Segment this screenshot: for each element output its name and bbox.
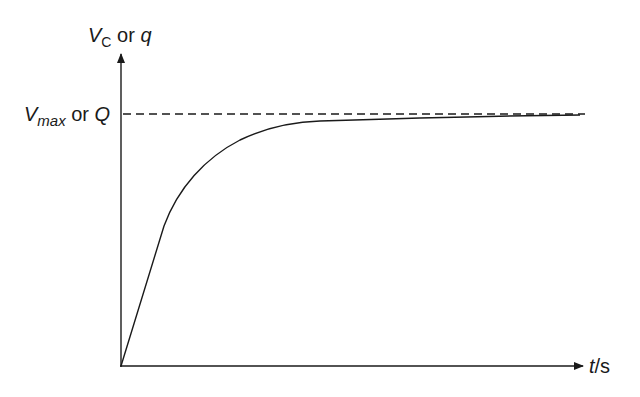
chart-svg: VC or q Vmax or Q t/s <box>0 0 640 397</box>
x-axis-label: t/s <box>589 355 610 377</box>
charging-curve <box>121 115 580 366</box>
y-axis-label: VC or q <box>88 24 152 50</box>
asymptote-label: Vmax or Q <box>24 103 110 129</box>
